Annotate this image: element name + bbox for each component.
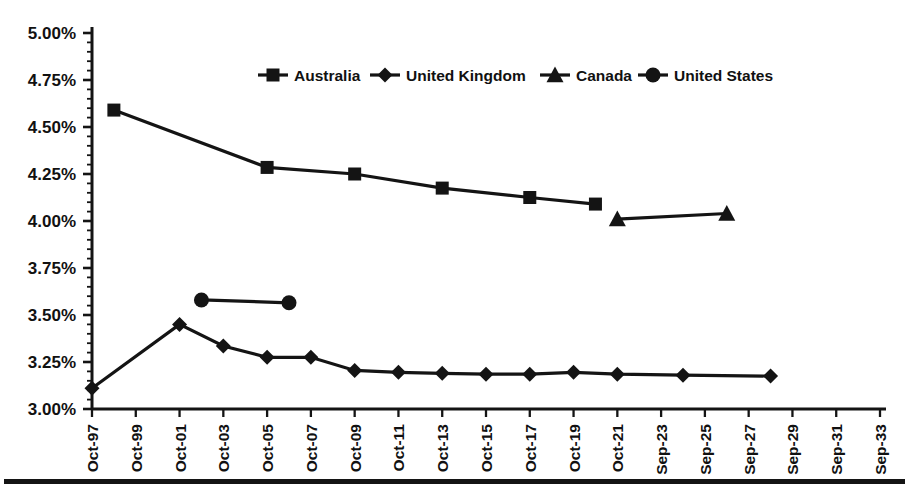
- x-tick-label: Sep-29: [784, 424, 801, 475]
- data-point-diamond: [391, 365, 406, 380]
- y-tick-label: 4.00%: [28, 212, 76, 231]
- data-point-diamond: [522, 367, 537, 382]
- legend-entry-canada: Canada: [540, 67, 632, 85]
- x-tick-label: Oct-19: [566, 424, 583, 473]
- data-point-square: [589, 198, 602, 211]
- x-tick-label: Sep-25: [697, 424, 714, 475]
- x-tick-label: Oct-13: [434, 424, 451, 473]
- y-tick-label: 4.25%: [28, 165, 76, 184]
- x-tick-label: Oct-05: [259, 424, 276, 473]
- series-line: [114, 110, 596, 204]
- data-point-square: [261, 161, 274, 174]
- y-tick-label: 3.75%: [28, 259, 76, 278]
- legend-entry-united-kingdom: United Kingdom: [370, 67, 526, 84]
- legend-marker-diamond: [378, 68, 393, 83]
- data-point-square: [436, 182, 449, 195]
- x-tick-label: Oct-21: [609, 424, 626, 473]
- y-tick-label: 4.75%: [28, 71, 76, 90]
- y-tick-label: 4.50%: [28, 118, 76, 137]
- x-tick-label: Oct-01: [172, 424, 189, 473]
- legend-marker-square: [267, 69, 280, 82]
- legend-marker-circle: [646, 68, 661, 83]
- x-tick-label: Sep-31: [828, 424, 845, 475]
- line-chart: 5.00%4.75%4.50%4.25%4.00%3.75%3.50%3.25%…: [0, 0, 909, 501]
- y-tick-label: 3.00%: [28, 400, 76, 419]
- x-tick-label: Oct-17: [522, 424, 539, 472]
- x-tick-label: Oct-07: [303, 424, 320, 472]
- bottom-rule: [4, 479, 905, 484]
- x-tick-label: Oct-99: [128, 424, 145, 473]
- x-tick-label: Sep-27: [741, 424, 758, 475]
- data-point-diamond: [435, 366, 450, 381]
- data-point-diamond: [260, 350, 275, 365]
- legend-label: United States: [674, 67, 773, 84]
- data-point-diamond: [763, 369, 778, 384]
- legend-label: Australia: [294, 67, 361, 84]
- x-tick-label: Oct-97: [84, 424, 101, 472]
- series-australia: [107, 104, 602, 211]
- series-line: [617, 213, 726, 219]
- x-tick-label: Oct-09: [347, 424, 364, 473]
- data-point-diamond: [216, 339, 231, 354]
- data-point-diamond: [610, 367, 625, 382]
- legend-entry-united-states: United States: [638, 67, 773, 84]
- x-tick-label: Oct-15: [478, 424, 495, 473]
- series-united-states: [194, 292, 297, 310]
- series-canada: [609, 205, 735, 226]
- legend-label: United Kingdom: [406, 67, 526, 84]
- legend-label: Canada: [576, 67, 632, 84]
- data-point-square: [523, 191, 536, 204]
- data-point-square: [348, 168, 361, 181]
- x-tick-label: Oct-11: [390, 424, 407, 472]
- chart-canvas: 5.00%4.75%4.50%4.25%4.00%3.75%3.50%3.25%…: [0, 0, 909, 501]
- series-line: [201, 300, 289, 303]
- data-point-diamond: [566, 365, 581, 380]
- data-point-square: [107, 104, 120, 117]
- data-point-circle: [194, 292, 209, 307]
- x-tick-label: Oct-03: [215, 424, 232, 473]
- y-tick-label: 3.50%: [28, 306, 76, 325]
- data-point-diamond: [676, 368, 691, 383]
- y-tick-label: 3.25%: [28, 353, 76, 372]
- x-tick-label: Sep-23: [653, 424, 670, 475]
- y-tick-label: 5.00%: [28, 24, 76, 43]
- legend-entry-australia: Australia: [258, 67, 361, 84]
- series-line: [92, 324, 771, 388]
- x-tick-label: Sep-33: [872, 424, 889, 475]
- data-point-diamond: [479, 367, 494, 382]
- series-united-kingdom: [85, 317, 779, 396]
- data-point-diamond: [347, 363, 362, 378]
- data-point-circle: [282, 295, 297, 310]
- data-point-diamond: [303, 350, 318, 365]
